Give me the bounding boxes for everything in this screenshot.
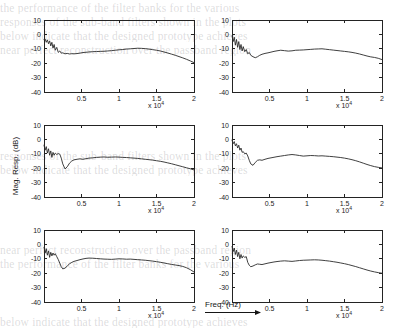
x-tick-label: 2 — [380, 305, 384, 312]
plot-area: 100-10-20-30-400.511.52 — [22, 224, 200, 318]
y-tick-label: -10 — [219, 45, 229, 52]
axes-frame — [44, 230, 194, 302]
x-tick-label: 2 — [380, 95, 384, 102]
y-tick-label: -30 — [31, 284, 41, 291]
magnitude-response-curve — [232, 36, 382, 60]
magnitude-response-figure: 100-10-20-30-400.511.52 100-10-20-30-400… — [0, 0, 393, 330]
y-tick-label: 10 — [221, 227, 229, 234]
y-tick-label: -10 — [31, 45, 41, 52]
axes-frame — [232, 125, 382, 197]
y-tick-label: 10 — [221, 17, 229, 24]
plot-area: 100-10-20-30-400.511.52 — [22, 14, 200, 108]
y-tick-label: -20 — [219, 270, 229, 277]
x-tick-label: 0.5 — [265, 200, 275, 207]
magnitude-response-curve — [44, 39, 194, 63]
y-tick-label: -40 — [31, 89, 41, 96]
plot-area: 100-10-20-30-400.511.52 — [22, 119, 200, 213]
axes-frame — [44, 20, 194, 92]
x-axis-label-text: Freq. (Hz) — [205, 300, 265, 309]
x-tick-label: 0.5 — [77, 200, 87, 207]
y-tick-label: 0 — [37, 241, 41, 248]
y-tick-label: -10 — [31, 255, 41, 262]
x-exponent-label: x 104 — [336, 205, 352, 214]
y-tick-label: -40 — [219, 89, 229, 96]
x-exponent-label: x 104 — [336, 100, 352, 109]
x-tick-label: 0.5 — [77, 305, 87, 312]
y-tick-label: -40 — [31, 194, 41, 201]
x-tick-label: 2 — [192, 95, 196, 102]
x-tick-label: 1 — [305, 200, 309, 207]
x-tick-label: 2 — [192, 200, 196, 207]
y-tick-label: -10 — [219, 150, 229, 157]
x-exponent-label: x 104 — [148, 100, 164, 109]
y-tick-label: 0 — [225, 241, 229, 248]
y-tick-label: -30 — [219, 179, 229, 186]
subplot-r2c2: 100-10-20-30-400.511.52 — [210, 119, 388, 213]
magnitude-response-curve — [44, 145, 194, 170]
x-tick-label: 1 — [117, 305, 121, 312]
plot-area: 100-10-20-30-400.511.52 — [210, 14, 388, 108]
x-tick-label: 0.5 — [77, 95, 87, 102]
y-tick-label: 10 — [33, 227, 41, 234]
x-exponent-label: x 104 — [148, 310, 164, 319]
y-tick-label: -20 — [31, 270, 41, 277]
y-tick-label: -40 — [219, 194, 229, 201]
axes-frame — [44, 125, 194, 197]
y-tick-label: -40 — [31, 299, 41, 306]
x-tick-label: 1 — [305, 95, 309, 102]
x-tick-label: 1 — [305, 305, 309, 312]
x-tick-label: 2 — [192, 305, 196, 312]
subplot-r2c1: 100-10-20-30-400.511.52 — [22, 119, 200, 213]
arrow-icon — [205, 310, 261, 318]
y-tick-label: -20 — [219, 60, 229, 67]
x-tick-label: 2 — [380, 200, 384, 207]
y-tick-label: -30 — [31, 74, 41, 81]
plot-area: 100-10-20-30-400.511.52 — [210, 119, 388, 213]
y-tick-label: 0 — [225, 136, 229, 143]
y-tick-label: 0 — [225, 31, 229, 38]
y-axis-label-text: Mag. Resp. (dB) — [11, 137, 20, 195]
magnitude-response-curve — [232, 247, 382, 274]
subplot-r1c1: 100-10-20-30-400.511.52 — [22, 14, 200, 108]
y-tick-label: 10 — [221, 122, 229, 129]
magnitude-response-curve — [232, 140, 382, 168]
y-tick-label: -30 — [219, 284, 229, 291]
x-exponent-label: x 104 — [336, 310, 352, 319]
magnitude-response-curve — [44, 247, 194, 272]
y-axis-label: Mag. Resp. (dB) — [8, 128, 22, 204]
subplot-r3c1: 100-10-20-30-400.511.52 — [22, 224, 200, 318]
y-tick-label: 0 — [37, 31, 41, 38]
y-tick-label: -10 — [31, 150, 41, 157]
x-tick-label: 1 — [117, 200, 121, 207]
x-tick-label: 0.5 — [265, 95, 275, 102]
x-tick-label: 1 — [117, 95, 121, 102]
y-tick-label: -20 — [31, 60, 41, 67]
x-tick-label: 0.5 — [265, 305, 275, 312]
y-tick-label: -30 — [31, 179, 41, 186]
y-tick-label: 0 — [37, 136, 41, 143]
y-tick-label: -30 — [219, 74, 229, 81]
axes-frame — [232, 20, 382, 92]
subplot-r1c2: 100-10-20-30-400.511.52 — [210, 14, 388, 108]
y-tick-label: 10 — [33, 122, 41, 129]
axes-frame — [232, 230, 382, 302]
y-tick-label: -10 — [219, 255, 229, 262]
y-tick-label: 10 — [33, 17, 41, 24]
x-exponent-label: x 104 — [148, 205, 164, 214]
y-tick-label: -20 — [219, 165, 229, 172]
x-axis-label: Freq. (Hz) — [205, 300, 265, 318]
y-tick-label: -20 — [31, 165, 41, 172]
